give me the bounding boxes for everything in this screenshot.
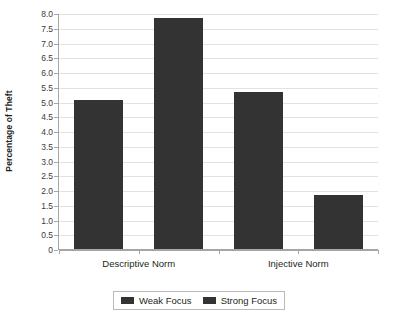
- y-axis-tick-label: 2.5: [19, 172, 53, 181]
- y-axis-tick-labels: 8.07.57.06.56.05.55.04.54.03.53.02.52.01…: [18, 14, 58, 250]
- y-axis-tick-label: 1.5: [19, 201, 53, 210]
- y-axis-tick-label: 5.5: [19, 83, 53, 92]
- bar: [234, 92, 283, 250]
- bar-chart: Percentage of Theft 8.07.57.06.56.05.55.…: [0, 0, 393, 323]
- x-axis-tick-mark: [378, 250, 379, 254]
- x-axis-tick-mark: [298, 250, 299, 254]
- x-axis-tick-mark: [219, 250, 220, 254]
- bar: [74, 100, 123, 250]
- x-axis-tick-mark: [59, 250, 60, 254]
- y-axis-tick-label: 4.5: [19, 113, 53, 122]
- plot-area: [58, 14, 378, 250]
- legend-swatch-icon: [203, 297, 216, 304]
- y-axis-tick-label: 3.0: [19, 157, 53, 166]
- x-axis-category-label: Descriptive Norm: [59, 258, 219, 269]
- y-axis-tick-label: 6.0: [19, 69, 53, 78]
- bars-layer: [59, 14, 378, 250]
- y-axis-tick-mark: [54, 250, 58, 251]
- y-axis-tick-label: 5.0: [19, 98, 53, 107]
- x-axis-tick-mark: [139, 250, 140, 254]
- y-axis-tick-label: 1.0: [19, 216, 53, 225]
- legend-label: Strong Focus: [221, 295, 278, 306]
- x-axis-category-label: Injective Norm: [218, 258, 378, 269]
- y-axis-tick-label: 7.0: [19, 39, 53, 48]
- legend-label: Weak Focus: [139, 295, 192, 306]
- y-axis-tick-label: 3.5: [19, 142, 53, 151]
- y-axis-tick-label: 7.5: [19, 24, 53, 33]
- bar: [154, 18, 203, 250]
- legend-entry[interactable]: Strong Focus: [203, 295, 278, 306]
- y-axis-title-text: Percentage of Theft: [4, 90, 14, 171]
- y-axis-tick-label: 0: [19, 246, 53, 255]
- legend-entry[interactable]: Weak Focus: [121, 295, 192, 306]
- y-axis-tick-label: 0.5: [19, 231, 53, 240]
- y-axis-tick-label: 8.0: [19, 10, 53, 19]
- chart-legend: Weak FocusStrong Focus: [113, 291, 285, 310]
- y-axis-tick-label: 4.0: [19, 128, 53, 137]
- legend-swatch-icon: [121, 297, 134, 304]
- y-axis-tick-label: 2.0: [19, 187, 53, 196]
- y-axis-tick-label: 6.5: [19, 54, 53, 63]
- y-axis-title: Percentage of Theft: [0, 0, 18, 262]
- bar: [314, 195, 363, 250]
